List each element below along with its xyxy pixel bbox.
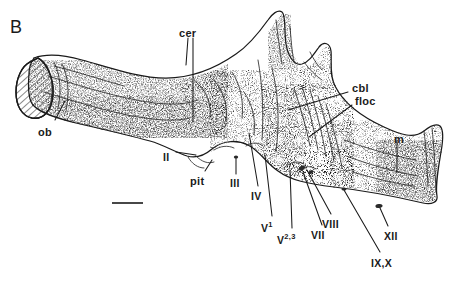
leader-IXX — [344, 190, 380, 252]
label-pit: pit — [190, 176, 204, 187]
endocast-drawing — [0, 0, 454, 287]
label-m: m — [394, 134, 404, 145]
label-ixx: IX,X — [371, 258, 392, 269]
leader-cer-a — [186, 38, 188, 65]
leader-pit — [205, 160, 212, 171]
label-v23: V2,3 — [277, 233, 296, 245]
label-cbl: cbl — [352, 83, 369, 94]
label-v1: V1 — [261, 221, 273, 233]
panel-label-b: B — [10, 18, 22, 36]
label-iii: III — [230, 178, 240, 189]
label-vii: VII — [311, 230, 325, 241]
leader-XII — [380, 208, 388, 226]
label-xii: XII — [384, 231, 398, 242]
label-ob: ob — [38, 127, 52, 138]
label-viii: VIII — [322, 219, 339, 230]
label-cer: cer — [179, 28, 196, 39]
stipple-shading — [28, 14, 442, 202]
label-iv: IV — [251, 191, 262, 202]
figure-panel-b: B cerobcblflocmIIpitIIIIVVIIIVIIXIIIX,XV… — [0, 0, 454, 287]
label-floc: floc — [355, 96, 376, 107]
label-ii: II — [163, 152, 169, 163]
